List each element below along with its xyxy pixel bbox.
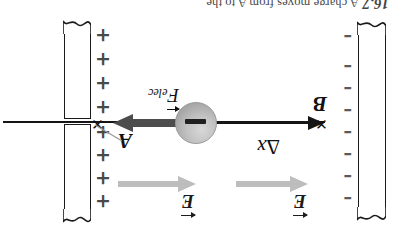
charge-sign-plus: + [95,50,111,69]
charge-sign-plus: + [95,26,111,45]
arrow-shaft [236,181,292,187]
negative-plate [358,26,386,216]
point-b-label: B [313,93,327,114]
charge-sign-plus: + [95,169,111,188]
arrowhead-icon [290,176,308,192]
efield-arrow-right [118,176,196,192]
figure-caption: 16.7 A charge moves from A to the [4,0,389,12]
force-symbol: F [167,85,179,106]
plate-left-top-break [357,207,386,223]
charge-sign-plus: + [95,192,111,211]
charge-sign-minus: – [344,28,353,45]
vector-arrow-icon [293,215,307,216]
charge-sign-minus: – [344,146,353,163]
efield-label-right: E [181,192,194,211]
efield-label-text: E [293,191,306,212]
figure-caption-number: 16.7 [362,0,389,12]
plate-right-bottom-break [63,18,91,34]
charge-sign-minus: – [344,80,353,97]
efield-arrow-left [236,176,308,192]
arrow-shaft [118,181,180,187]
displacement-label: Δx [257,136,280,157]
point-b-marker: ✕ [314,116,329,131]
arrowhead-icon [178,176,196,192]
vector-arrow-icon [167,109,179,110]
plate-right-top-break [63,209,91,225]
force-subscript: elec [148,86,167,100]
vector-arrow-icon [181,215,195,216]
charge-sign-plus: + [95,74,111,93]
efield-label-left: E [293,192,306,211]
charge-sign-minus: – [344,58,353,75]
charge-sign-minus: – [344,168,353,185]
figure-caption-text: A charge moves from A to the [206,0,359,10]
plate-left-bottom-break [357,19,386,35]
displacement-variable: x [257,135,266,159]
charge-sign-minus: – [344,102,353,119]
delta-symbol: Δ [266,135,280,159]
charge-sign-minus: – [344,124,353,141]
charge-sign-plus: + [95,146,111,165]
positive-plate-lower [64,25,91,119]
efield-label-text: E [181,191,194,212]
charge-sign-minus: – [344,190,353,207]
point-a-leader-line [84,121,122,141]
figure-canvas: 16.7 A charge moves from A to the – – – … [0,0,403,245]
charge-minus-icon [185,120,206,125]
electric-force-label: Felec [148,86,179,105]
negative-charge-sphere [175,102,217,144]
